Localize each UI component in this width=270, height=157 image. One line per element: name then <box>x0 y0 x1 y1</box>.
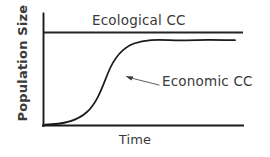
economic-cc-label: Economic CC <box>162 75 253 89</box>
ecological-cc-label: Ecological CC <box>92 14 186 28</box>
population-growth-figure: Ecological CC Economic CC Time Populatio… <box>0 0 270 157</box>
y-axis-label: Population Size <box>16 18 29 122</box>
economic-cc-leader-line <box>131 78 159 85</box>
x-axis-label: Time <box>0 133 270 146</box>
economic-cc-arrow-icon <box>126 76 134 81</box>
